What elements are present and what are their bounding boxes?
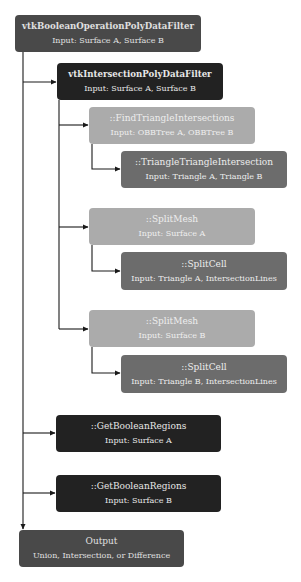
node-split-mesh-a: ::SplitMesh Input: Surface A [89,208,255,245]
node-subtitle: Input: Triangle A, IntersectionLines [131,273,277,285]
node-subtitle: Input: Triangle B, IntersectionLines [131,376,277,388]
arrow-to-split-cell-a [92,245,120,271]
node-title: ::SplitMesh [146,315,198,327]
node-title: ::SplitCell [181,361,226,373]
node-title: ::TriangleTriangleIntersection [135,156,273,168]
node-subtitle: Input: OBBTree A, OBBTree B [111,127,234,139]
node-title: ::GetBooleanRegions [91,420,187,432]
node-split-mesh-b: ::SplitMesh Input: Surface B [89,310,255,347]
node-split-cell-b: ::SplitCell Input: Triangle B, Intersect… [121,355,287,393]
node-split-cell-a: ::SplitCell Input: Triangle A, Intersect… [121,252,287,290]
arrow-to-triangle-triangle-intersection [92,144,120,169]
node-title: vtkBooleanOperationPolyDataFilter [22,20,194,32]
node-title: vtkIntersectionPolyDataFilter [68,68,211,80]
node-title: ::SplitMesh [146,213,198,225]
node-boolean-operation-filter: vtkBooleanOperationPolyDataFilter Input:… [15,15,201,52]
node-get-boolean-regions-a: ::GetBooleanRegions Input: Surface A [56,415,221,452]
node-subtitle: Input: Surface A, Surface B [52,35,164,47]
node-title: ::GetBooleanRegions [91,480,187,492]
node-title: ::SplitCell [181,258,226,270]
node-subtitle: Union, Intersection, or Difference [33,550,170,562]
node-subtitle: Input: Surface A [105,435,172,447]
node-subtitle: Input: Triangle A, Triangle B [146,171,263,183]
node-subtitle: Input: Surface A [139,228,206,240]
node-get-boolean-regions-b: ::GetBooleanRegions Input: Surface B [56,475,221,512]
node-title: Output [86,535,118,547]
node-find-triangle-intersections: ::FindTriangleIntersections Input: OBBTr… [89,107,255,144]
node-triangle-triangle-intersection: ::TriangleTriangleIntersection Input: Tr… [121,151,287,188]
node-subtitle: Input: Surface B [105,495,172,507]
node-title: ::FindTriangleIntersections [110,112,235,124]
node-subtitle: Input: Surface B [139,330,206,342]
node-output: Output Union, Intersection, or Differenc… [19,530,184,567]
node-intersection-filter: vtkIntersectionPolyDataFilter Input: Sur… [57,63,223,100]
arrow-to-split-cell-b [92,347,120,373]
node-subtitle: Input: Surface A, Surface B [84,83,196,95]
